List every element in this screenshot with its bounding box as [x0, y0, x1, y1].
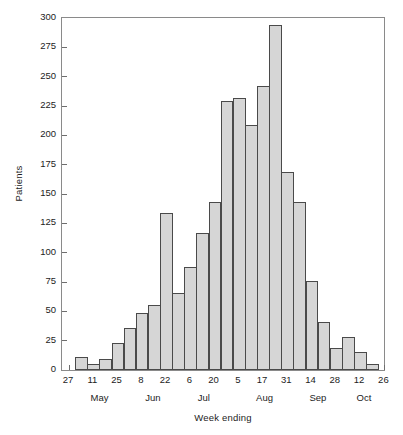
y-axis-tick-mark: [62, 282, 67, 283]
y-axis-tick-label: 300: [40, 11, 56, 22]
bar: [318, 322, 331, 370]
bar: [330, 348, 343, 370]
bar: [366, 364, 379, 370]
x-axis-tick-label: 12: [354, 374, 365, 385]
x-axis-tick-label: 6: [187, 374, 192, 385]
x-axis-tick-label: 22: [160, 374, 171, 385]
bar: [306, 281, 319, 370]
y-axis-tick-mark: [62, 194, 67, 195]
y-axis-tick-label: 125: [40, 216, 56, 227]
plot-area: 0255075100125150175200225250275300: [61, 17, 385, 371]
bar: [209, 202, 222, 370]
bar: [136, 313, 149, 370]
x-axis-month-label: Aug: [256, 392, 273, 403]
x-axis-title: Week ending: [61, 412, 385, 423]
bar-chart-figure: Patients 0255075100125150175200225250275…: [0, 0, 403, 435]
y-axis-tick-mark: [62, 223, 67, 224]
y-axis-tick-mark: [62, 164, 67, 165]
x-axis-tick-label: 25: [111, 374, 122, 385]
x-axis-tick-label: 31: [281, 374, 292, 385]
x-axis-tick-label: 11: [87, 374, 97, 385]
bar: [124, 328, 137, 370]
x-axis-tick-label: 20: [208, 374, 219, 385]
bar: [281, 172, 294, 370]
x-axis-month-label: Jul: [198, 392, 210, 403]
x-axis-tick-label: 17: [257, 374, 268, 385]
bar: [342, 337, 355, 370]
y-axis-tick-label: 0: [51, 363, 56, 374]
bar: [233, 98, 246, 370]
bar: [75, 357, 88, 370]
x-axis-month-label: Sep: [309, 392, 326, 403]
y-axis-tick-label: 275: [40, 40, 56, 51]
x-axis-tick-label: 5: [235, 374, 240, 385]
bar: [148, 305, 161, 370]
y-axis-tick-label: 200: [40, 128, 56, 139]
y-axis-tick-label: 75: [45, 275, 56, 286]
x-axis-tick-label: 26: [378, 374, 389, 385]
bar: [172, 293, 185, 370]
y-axis-tick-label: 25: [45, 334, 56, 345]
y-axis-tick-mark: [62, 135, 67, 136]
y-axis-tick-label: 50: [45, 304, 56, 315]
y-axis-tick-mark: [62, 106, 67, 107]
x-axis-month-label: Oct: [357, 392, 372, 403]
bar: [184, 267, 197, 370]
bar: [112, 343, 125, 370]
bar: [99, 359, 112, 370]
x-axis-tick-label: 27: [63, 374, 74, 385]
y-axis-tick-mark: [62, 76, 67, 77]
x-axis-tick-mark: [384, 365, 385, 370]
bar: [245, 125, 258, 370]
bar: [160, 213, 173, 370]
plot-inner: 0255075100125150175200225250275300: [62, 18, 384, 370]
x-axis-tick-label: 14: [305, 374, 316, 385]
bar: [354, 352, 367, 370]
y-axis-tick-label: 100: [40, 246, 56, 257]
y-axis-tick-mark: [62, 340, 67, 341]
x-axis-tick-label: 28: [330, 374, 341, 385]
y-axis-tick-label: 250: [40, 70, 56, 81]
x-axis-month-label: May: [91, 392, 109, 403]
y-axis-tick-mark: [62, 252, 67, 253]
y-axis-title: Patients: [13, 144, 24, 224]
bar: [257, 86, 270, 370]
x-axis-month-label: Jun: [145, 392, 160, 403]
bar: [293, 202, 306, 370]
y-axis-tick-label: 225: [40, 99, 56, 110]
y-axis-tick-mark: [62, 311, 67, 312]
bar: [87, 364, 100, 370]
y-axis-tick-label: 150: [40, 187, 56, 198]
x-axis-tick-mark: [69, 365, 70, 370]
bar: [196, 233, 209, 370]
bar: [269, 25, 282, 370]
x-axis-tick-label: 8: [138, 374, 143, 385]
y-axis-tick-label: 175: [40, 158, 56, 169]
bar: [221, 101, 234, 370]
y-axis-tick-mark: [62, 47, 67, 48]
